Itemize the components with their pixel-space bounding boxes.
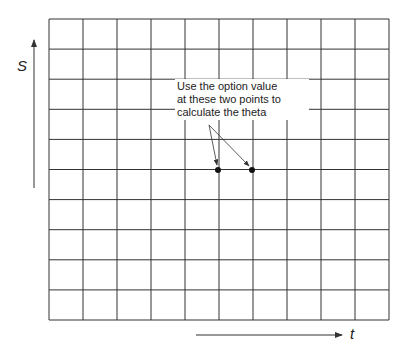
annotation-line-1: Use the option value (177, 80, 307, 93)
annotation-text: Use the option value at these two points… (175, 79, 309, 120)
point-1 (215, 167, 221, 173)
annotation-line-2: at these two points to (177, 93, 307, 106)
s-axis-label: S (17, 57, 27, 74)
point-2 (249, 167, 255, 173)
pointer-arrow-1 (209, 125, 217, 165)
grid-diagram (0, 0, 407, 355)
annotation-line-3: calculate the theta (177, 106, 307, 119)
pointer-arrow-2 (209, 125, 249, 166)
t-axis-label: t (350, 325, 354, 342)
